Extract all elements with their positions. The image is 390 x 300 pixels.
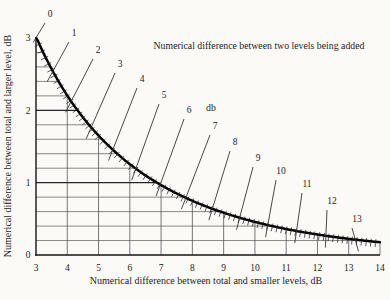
x-tick-labels: 34567891011121314: [34, 263, 385, 273]
x-axis-label: Numerical difference between total and s…: [90, 275, 323, 286]
diagonal-unit-label: db: [206, 102, 216, 113]
y-tick-label: 1: [26, 178, 31, 188]
x-tick-label: 7: [159, 263, 164, 273]
x-tick-label: 5: [96, 263, 101, 273]
chart-annotation: Numerical difference between two levels …: [154, 40, 365, 51]
diagonal-value: 1: [72, 28, 77, 38]
y-axis-label: Numerical difference between total and l…: [2, 35, 13, 258]
diagonal-value: 2: [96, 45, 101, 55]
diagonal-value: 12: [327, 196, 337, 206]
diagonal-value: 10: [276, 166, 286, 176]
x-tick-label: 8: [190, 263, 195, 273]
diagonal-pointers: [33, 23, 358, 251]
db-addition-figure: 012345678910111213345678910111213140123 …: [0, 0, 390, 300]
x-tick-label: 11: [282, 263, 291, 273]
y-tick-label: 0: [26, 250, 31, 260]
diagonal-value: 8: [233, 137, 238, 147]
x-tick-label: 13: [344, 263, 354, 273]
y-tick-labels: 0123: [26, 33, 31, 260]
x-tick-label: 9: [221, 263, 226, 273]
diagonal-value: 7: [213, 121, 218, 131]
x-tick-label: 6: [127, 263, 132, 273]
diagonal-value: 11: [302, 179, 311, 189]
diagonal-value: 13: [352, 214, 362, 224]
x-tick-label: 14: [375, 263, 385, 273]
diagonal-value: 5: [162, 90, 167, 100]
diagonal-value: 3: [118, 59, 123, 69]
diagonal-value: 0: [48, 9, 53, 19]
x-tick-label: 10: [250, 263, 260, 273]
grid: [36, 52, 380, 255]
curve-hachures: [35, 43, 376, 247]
diagonal-value: 4: [140, 74, 145, 84]
x-tick-label: 3: [34, 263, 39, 273]
x-tick-label: 4: [65, 263, 70, 273]
diagonal-value: 9: [256, 153, 261, 163]
db-addition-chart: 012345678910111213345678910111213140123 …: [0, 0, 390, 300]
y-tick-label: 2: [26, 106, 31, 116]
x-tick-label: 12: [313, 263, 323, 273]
y-tick-label: 3: [26, 33, 31, 43]
diagonal-value: 6: [187, 105, 192, 115]
